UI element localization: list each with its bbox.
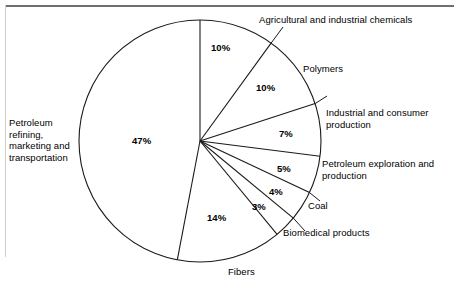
leader-line-agricultural xyxy=(271,27,283,43)
value-label-industrial-consumer: 7% xyxy=(279,128,293,139)
label-petroleum-exploration-and-production: Petroleum exploration and production xyxy=(322,158,434,181)
leader-line-polymers xyxy=(315,96,327,104)
label-industrial-and-consumer-production: Industrial and consumer production xyxy=(326,107,429,130)
value-label-polymers: 10% xyxy=(256,82,275,93)
value-label-biomedical: 3% xyxy=(252,201,266,212)
value-label-fibers: 14% xyxy=(207,212,226,223)
value-label-petroleum-exploration: 5% xyxy=(277,163,291,174)
label-fibers: Fibers xyxy=(228,266,255,278)
value-label-coal: 4% xyxy=(269,186,283,197)
value-label-agricultural: 10% xyxy=(211,42,230,53)
value-label-petroleum-refining: 47% xyxy=(132,135,151,146)
label-biomedical-products: Biomedical products xyxy=(283,227,370,239)
pie-chart-page: Agricultural and industrial chemicals Po… xyxy=(0,0,455,286)
label-polymers: Polymers xyxy=(303,63,343,75)
label-petroleum-refining-marketing-and-transportation: Petroleum refining, marketing and transp… xyxy=(9,117,70,163)
label-coal: Coal xyxy=(308,200,328,212)
label-agricultural-and-industrial-chemicals: Agricultural and industrial chemicals xyxy=(259,14,412,26)
